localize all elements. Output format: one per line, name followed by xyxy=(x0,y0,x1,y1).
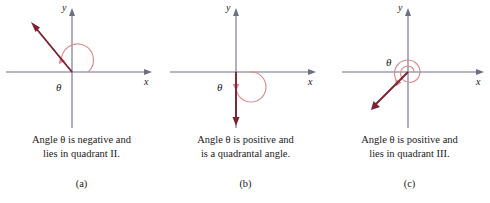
panel-b-label: (b) xyxy=(164,178,327,189)
panel-c-label: (c) xyxy=(328,178,490,189)
panel-a-caption: Angle θ is negative and lies in quadrant… xyxy=(0,133,163,160)
theta-label: θ xyxy=(386,56,391,68)
panel-b-plot xyxy=(164,0,327,130)
y-axis-label: y xyxy=(226,2,230,13)
y-axis-label: y xyxy=(398,2,402,13)
caption-line-2: lies in quadrant II. xyxy=(0,147,163,161)
y-axis xyxy=(405,8,411,128)
panel-b-caption: Angle θ is positive and is a quadrantal … xyxy=(164,133,327,160)
panel-c-plot xyxy=(328,0,490,130)
x-axis-label: x xyxy=(476,76,480,87)
panel-a: y x θ Angle θ is negative and lies in qu… xyxy=(0,0,163,203)
angles-standard-position-figure: y x θ Angle θ is negative and lies in qu… xyxy=(0,0,490,203)
angle-arc xyxy=(59,44,94,72)
caption-line-2: is a quadrantal angle. xyxy=(164,147,327,161)
terminal-ray xyxy=(233,72,240,126)
panel-c: y x θ Angle θ is positive and lies in qu… xyxy=(328,0,490,203)
x-axis xyxy=(6,69,152,75)
caption-line-2: lies in quadrant III. xyxy=(328,147,490,161)
caption-line-1: Angle θ is positive and xyxy=(328,133,490,147)
panel-c-caption: Angle θ is positive and lies in quadrant… xyxy=(328,133,490,160)
x-axis-label: x xyxy=(308,76,312,87)
x-axis xyxy=(170,69,316,75)
panel-a-label: (a) xyxy=(0,178,163,189)
angle-arc xyxy=(233,72,266,102)
panel-a-plot xyxy=(0,0,163,130)
theta-label: θ xyxy=(217,81,222,93)
panel-b: y x θ Angle θ is positive and is a quadr… xyxy=(164,0,327,203)
y-axis-label: y xyxy=(62,2,66,13)
terminal-ray xyxy=(31,22,72,72)
theta-label: θ xyxy=(56,81,61,93)
caption-line-1: Angle θ is negative and xyxy=(0,133,163,147)
caption-line-1: Angle θ is positive and xyxy=(164,133,327,147)
x-axis-label: x xyxy=(144,76,148,87)
terminal-ray xyxy=(371,72,408,110)
